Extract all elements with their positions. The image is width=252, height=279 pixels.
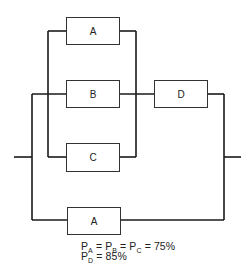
operator: = 75% [142, 240, 176, 252]
block-label: A [91, 216, 98, 227]
probability-formula-line-2: PD = 85% [81, 251, 127, 261]
block-label: A [90, 26, 97, 37]
block-label: D [177, 89, 184, 100]
block-label: B [90, 89, 97, 100]
block-a-top: A [67, 18, 120, 45]
block-a-bottom: A [68, 208, 121, 235]
block-d: D [155, 81, 208, 108]
block-c: C [67, 144, 120, 172]
operator: = 85% [93, 250, 127, 262]
reliability-block-diagram: A B C D A [0, 0, 252, 279]
block-b: B [67, 81, 120, 108]
block-label: C [89, 152, 96, 163]
